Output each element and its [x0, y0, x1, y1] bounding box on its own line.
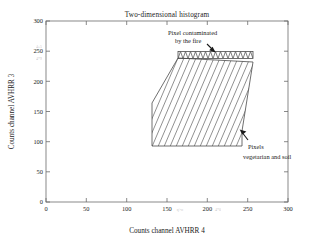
svg-text:4*9: 4*9: [36, 56, 42, 61]
x-tick-label-300: 300: [283, 205, 293, 212]
annotation-vegetation-line1: Pixels: [248, 143, 264, 150]
x-tick-label-50: 50: [83, 205, 89, 212]
x-tick-label-0: 0: [44, 205, 47, 212]
svg-text:4*0: 4*0: [215, 207, 221, 212]
chart-title: Two-dimensional histogram: [125, 11, 210, 19]
y-tick-label-0: 0: [40, 198, 43, 205]
svg-text:q>o: q>o: [177, 207, 183, 212]
x-tick-label-100: 100: [122, 205, 132, 212]
y-tick-label-300: 300: [33, 17, 43, 24]
y-tick-label-200: 200: [33, 78, 43, 85]
svg-text:4»5: 4»5: [36, 44, 42, 49]
two-dimensional-histogram-chart: Two-dimensional histogram 0 50 100 150 2…: [0, 0, 312, 248]
x-tick-label-150: 150: [162, 205, 172, 212]
y-tick-label-100: 100: [33, 138, 43, 145]
y-axis-label: Counts channel AVHRR 3: [8, 73, 16, 149]
y-tick-label-150: 150: [33, 108, 43, 115]
annotation-fire-line2: by the fire: [175, 37, 201, 44]
x-tick-label-250: 250: [243, 205, 253, 212]
figure-container: Two-dimensional histogram 0 50 100 150 2…: [0, 0, 312, 248]
annotation-vegetation-line2: vegetarian and soil: [243, 153, 291, 160]
x-tick-label-200: 200: [203, 205, 213, 212]
y-tick-label-50: 50: [37, 168, 43, 175]
annotation-fire-line1: Pixel contaminated: [168, 29, 218, 36]
x-axis-label: Counts channel AVHRR 4: [129, 227, 205, 235]
